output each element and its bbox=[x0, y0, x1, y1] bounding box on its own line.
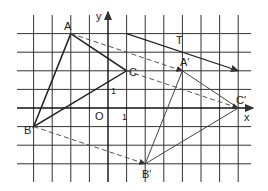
vector-t-label: T bbox=[176, 34, 183, 46]
x-axis-label: x bbox=[244, 111, 250, 123]
point-b-prime-label: B′ bbox=[142, 168, 151, 180]
origin-label: O bbox=[95, 110, 104, 122]
y-axis-label: y bbox=[96, 10, 102, 22]
unit-y-label: 1 bbox=[111, 86, 116, 96]
labels: y x O 1 1 A B C A′ B′ C′ T bbox=[24, 10, 250, 180]
point-a-prime-label: A′ bbox=[180, 56, 189, 68]
triangle-a-prime-b-prime-c-prime bbox=[145, 71, 238, 164]
point-a-label: A bbox=[64, 20, 72, 32]
translation-diagram: y x O 1 1 A B C A′ B′ C′ T bbox=[0, 0, 268, 191]
grid bbox=[17, 15, 251, 182]
triangles bbox=[34, 34, 239, 164]
point-c-label: C bbox=[129, 66, 137, 78]
unit-x-label: 1 bbox=[122, 112, 127, 122]
point-b-label: B bbox=[24, 124, 31, 136]
point-c-prime-label: C′ bbox=[236, 94, 246, 106]
